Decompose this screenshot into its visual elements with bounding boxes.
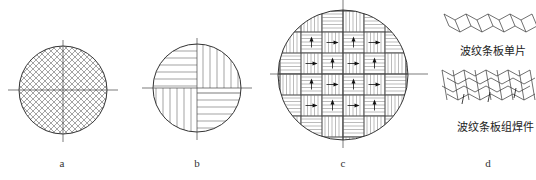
panel-b: b <box>135 0 260 180</box>
panel-a: a <box>0 0 130 180</box>
caption-strip-assembly: 波纹条板组焊件 <box>457 118 534 134</box>
panel-c: c <box>270 0 435 180</box>
crosshatch-circle-diagram <box>0 0 130 150</box>
panel-label-c: c <box>333 157 353 169</box>
quadrant-lines-circle-diagram <box>135 0 260 150</box>
panel-label-d: d <box>478 157 498 169</box>
caption-single-strip: 波纹条板单片 <box>460 42 526 58</box>
panel-label-b: b <box>187 157 207 169</box>
panel-label-a: a <box>52 157 72 169</box>
checkerboard-circle-diagram <box>270 0 435 150</box>
panel-d: 波纹条板单片 波纹条板组焊件 d <box>440 0 536 180</box>
